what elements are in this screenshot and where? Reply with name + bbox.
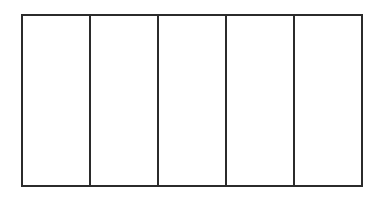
rectangle-part-2	[91, 16, 159, 185]
diagram-canvas	[0, 0, 378, 210]
divided-rectangle	[21, 14, 363, 187]
rectangle-part-4	[227, 16, 295, 185]
rectangle-part-1	[23, 16, 91, 185]
rectangle-part-5	[295, 16, 361, 185]
rectangle-part-3	[159, 16, 227, 185]
